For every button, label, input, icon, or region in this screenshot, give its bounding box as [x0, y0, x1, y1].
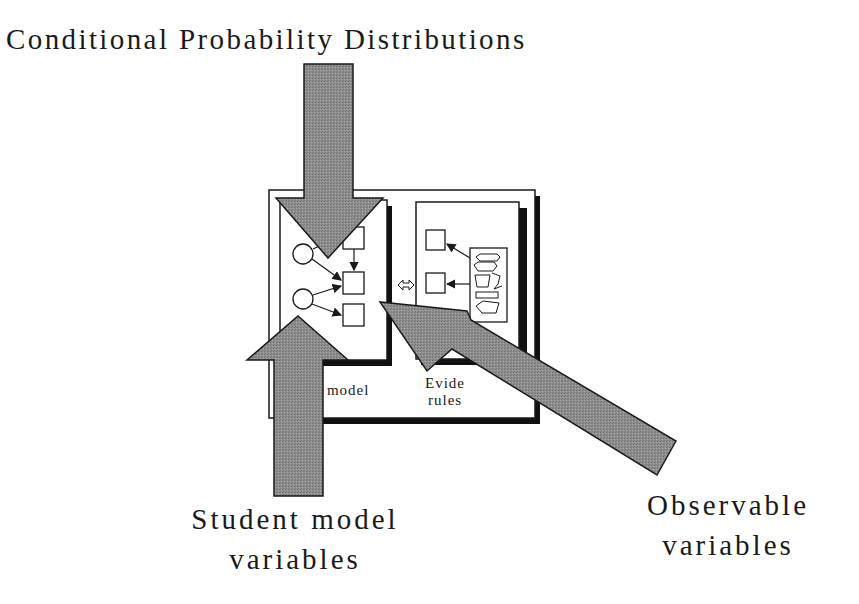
evidence-rules-label-line2: rules	[428, 392, 462, 408]
observable-label-line2: variables	[628, 528, 828, 562]
student-label-line1: Student model	[165, 502, 425, 536]
observable-variables-label: Observable variables	[628, 488, 828, 562]
evidence-rules-label-line1: Evide	[425, 375, 465, 391]
observable-label-line1: Observable	[628, 488, 828, 522]
student-label-line2: variables	[165, 542, 425, 576]
diagram-title: Conditional Probability Distributions	[6, 22, 527, 56]
sm-node-circle-2	[293, 289, 313, 309]
student-model-variables-label: Student model variables	[165, 502, 425, 576]
student-model-panel-label: t model	[317, 382, 369, 398]
sm-node-circle-1	[293, 244, 313, 264]
